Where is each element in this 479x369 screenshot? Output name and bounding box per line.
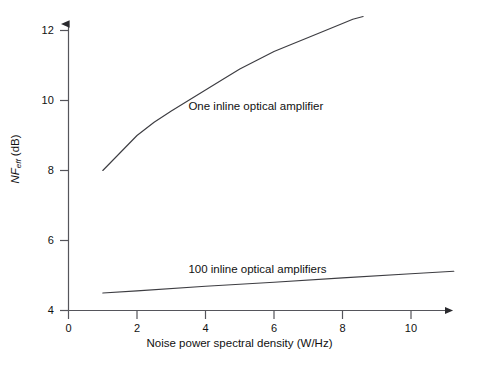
y-axis-title-subscript: eff [14,159,23,168]
y-tick-label-10: 10 [32,94,54,106]
x-tick-label-2: 2 [125,322,149,334]
y-axis-title-units: (dB) [9,134,21,156]
x-tick-label-4: 4 [194,322,218,334]
y-tick-label-12: 12 [32,24,54,36]
x-axis-group [69,311,453,320]
series-annotation-hundred-amplifiers: 100 inline optical amplifiers [188,263,326,276]
series-lines [103,17,454,294]
y-axis-title-symbol: NF [9,168,21,183]
x-axis-title: Noise power spectral density (W/Hz) [0,337,479,350]
series-annotation-one-amplifier: One inline optical amplifier [188,100,323,113]
y-axis-ticks [60,31,69,311]
y-tick-label-8: 8 [32,164,54,176]
y-tick-label-4: 4 [32,304,54,316]
series-line-one-amplifier [103,17,363,171]
y-axis-group [60,24,69,311]
y-tick-label-6: 6 [32,234,54,246]
x-tick-label-0: 0 [57,322,81,334]
y-axis-title: NFeff (dB) [9,119,23,199]
chart-figure: 12 10 8 6 4 0 2 4 6 8 10 NFeff (dB) Nois… [0,0,479,369]
x-tick-label-10: 10 [399,322,423,334]
x-tick-label-6: 6 [262,322,286,334]
x-axis-ticks [69,311,412,320]
x-tick-label-8: 8 [331,322,355,334]
chart-plot-area [0,0,479,369]
